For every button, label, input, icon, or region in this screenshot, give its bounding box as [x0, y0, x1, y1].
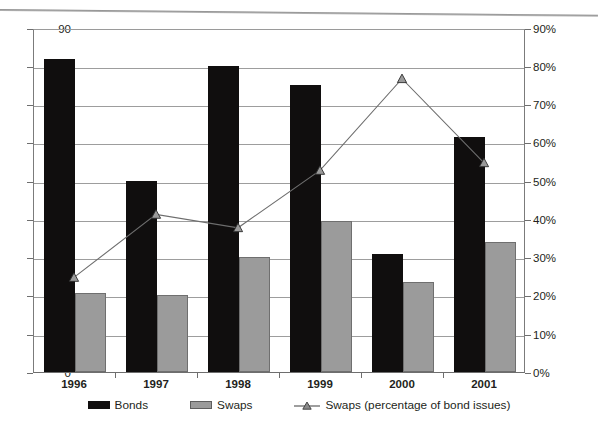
tickmark-right-40	[525, 220, 531, 221]
tickmark-right-80	[525, 67, 531, 68]
bar-bonds-1999	[290, 85, 321, 372]
x-tick-2000	[361, 373, 362, 378]
legend-swatch-swaps-icon	[190, 401, 212, 409]
gridline-30	[34, 259, 524, 260]
bar-bonds-1997	[126, 181, 157, 372]
plot-area	[33, 29, 525, 373]
legend-item-swaps: Swaps	[190, 398, 252, 412]
x-axis-label-1998: 1998	[203, 378, 273, 390]
gridline-50	[34, 183, 524, 184]
bar-bonds-1996	[44, 59, 75, 372]
bar-swaps-2000	[403, 282, 434, 372]
x-axis-label-2001: 2001	[449, 378, 519, 390]
gridline-20	[34, 297, 524, 298]
x-axis-label-1997: 1997	[121, 378, 191, 390]
gridline-70	[34, 106, 524, 107]
y-tick-right-70: 70%	[533, 99, 573, 111]
legend-label-swaps-percentage: Swaps (percentage of bond issues)	[325, 398, 510, 412]
tickmark-left-0	[27, 373, 33, 374]
y-tick-right-90: 90%	[533, 23, 573, 35]
x-axis-label-1999: 1999	[285, 378, 355, 390]
y-tick-right-50: 50%	[533, 176, 573, 188]
bar-bonds-2000	[372, 254, 403, 372]
bar-swaps-1999	[321, 221, 352, 372]
combo-chart: 90 80 70 60 50 40 30 20 10 0 90% 80% 70%…	[0, 0, 598, 438]
chart-legend: Bonds Swaps Swaps (percentage of bond is…	[0, 398, 598, 412]
y-tick-right-0: 0%	[533, 367, 573, 379]
tickmark-right-0	[525, 373, 531, 374]
y-tick-right-60: 60%	[533, 137, 573, 149]
y-tick-right-80: 80%	[533, 61, 573, 73]
legend-label-bonds: Bonds	[115, 398, 148, 412]
y-tick-right-40: 40%	[533, 214, 573, 226]
tickmark-right-90	[525, 29, 531, 30]
bar-swaps-1998	[239, 257, 270, 372]
tickmark-right-30	[525, 258, 531, 259]
bar-swaps-1997	[157, 295, 188, 372]
y-tick-right-30: 30%	[533, 252, 573, 264]
x-axis-label-2000: 2000	[367, 378, 437, 390]
gridline-40	[34, 221, 524, 222]
gridline-60	[34, 144, 524, 145]
legend-label-swaps: Swaps	[217, 398, 252, 412]
tickmark-right-70	[525, 105, 531, 106]
bar-swaps-1996	[75, 293, 106, 372]
legend-triangle-marker-icon	[294, 400, 320, 410]
tickmark-right-50	[525, 182, 531, 183]
x-tick-2001	[443, 373, 444, 378]
x-tick-1999	[279, 373, 280, 378]
x-tick-1998	[197, 373, 198, 378]
gridline-10	[34, 336, 524, 337]
bar-bonds-1998	[208, 66, 239, 372]
tickmark-right-20	[525, 296, 531, 297]
x-axis-label-1996: 1996	[39, 378, 109, 390]
gridline-80	[34, 68, 524, 69]
x-tick-1997	[115, 373, 116, 378]
bar-bonds-2001	[454, 137, 485, 372]
y-tick-right-20: 20%	[533, 290, 573, 302]
legend-item-swaps-percentage: Swaps (percentage of bond issues)	[294, 398, 510, 412]
y-tick-right-10: 10%	[533, 329, 573, 341]
legend-item-bonds: Bonds	[88, 398, 148, 412]
bar-swaps-2001	[485, 242, 516, 372]
tickmark-right-10	[525, 335, 531, 336]
legend-swatch-bonds-icon	[88, 401, 110, 409]
tickmark-right-60	[525, 143, 531, 144]
